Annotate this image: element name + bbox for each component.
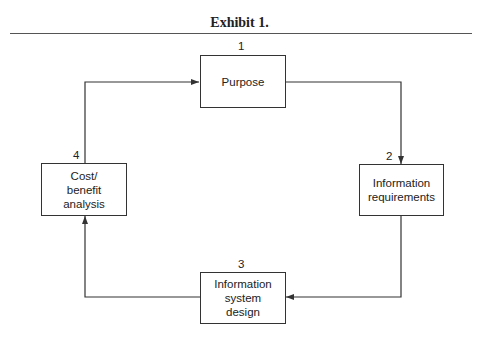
node-number-3: 3 bbox=[238, 258, 244, 270]
node-label-purpose: Purpose bbox=[222, 75, 265, 89]
node-label-information-requirements: Information requirements bbox=[364, 176, 439, 204]
node-information-system-design: Information system design bbox=[200, 272, 286, 324]
node-number-4: 4 bbox=[73, 149, 79, 161]
node-label-information-system-design: Information system design bbox=[209, 277, 277, 319]
node-number-2: 2 bbox=[386, 150, 392, 162]
edge-design-to-costbenefit bbox=[85, 216, 200, 297]
node-label-cost-benefit-analysis: Cost/ benefit analysis bbox=[60, 169, 108, 211]
edge-costbenefit-to-purpose bbox=[85, 82, 199, 163]
node-purpose: Purpose bbox=[200, 55, 286, 108]
node-cost-benefit-analysis: Cost/ benefit analysis bbox=[41, 163, 127, 216]
edge-purpose-to-requirements bbox=[285, 82, 401, 164]
node-number-1: 1 bbox=[238, 40, 244, 52]
node-information-requirements: Information requirements bbox=[359, 164, 444, 216]
edge-requirements-to-design bbox=[286, 216, 401, 297]
